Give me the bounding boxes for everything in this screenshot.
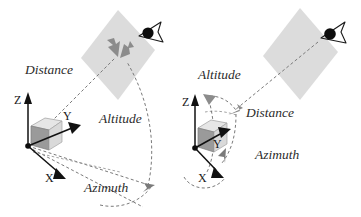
axis-label-x-left: X	[45, 171, 54, 185]
label-altitude-left: Altitude	[98, 111, 142, 126]
axis-label-y-right: Y	[213, 137, 222, 151]
axis-label-y-left: Y	[63, 109, 72, 123]
origin-point-right	[192, 145, 198, 151]
axis-label-z-left: Z	[14, 93, 21, 107]
figure-root: Z Y X Distance Altitude Azimuth	[0, 0, 361, 217]
label-azimuth-right: Azimuth	[254, 147, 300, 162]
origin-point-left	[25, 143, 31, 149]
label-distance-left: Distance	[24, 62, 73, 77]
label-altitude-right: Altitude	[197, 67, 241, 82]
label-distance-right: Distance	[245, 105, 294, 120]
axis-label-x-right: X	[198, 171, 207, 185]
label-azimuth-left: Azimuth	[83, 180, 129, 195]
diagram-canvas: Z Y X Distance Altitude Azimuth	[0, 0, 361, 217]
axis-label-z-right: Z	[182, 95, 189, 109]
